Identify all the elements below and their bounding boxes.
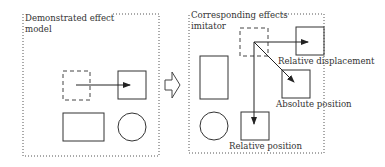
right-panel-title-line2: imitator [191,21,227,31]
hollow-right-arrow-icon [165,72,180,98]
tall-rectangle-shape [200,56,228,99]
relative-position-square [241,112,269,140]
left-panel-title-line2: model [25,24,52,34]
left-panel-title-line1: Demonstrated effect [25,13,115,23]
relative-displacement-label: Relative displacement [278,56,375,66]
effect-imitation-diagram: Demonstrated effect model Corresponding … [0,0,385,167]
circle-shape-imitator [200,112,228,140]
right-panel-title-line1: Corresponding effects [191,10,288,20]
rectangle-shape [63,113,104,141]
circle-shape [118,113,146,141]
right-panel: Corresponding effects imitator Relative … [189,10,375,153]
relative-position-label: Relative position [229,141,303,151]
absolute-position-label: Absolute position [275,99,352,109]
right-panel-border [189,14,324,153]
left-panel: Demonstrated effect model [23,13,159,156]
relative-displacement-square [296,27,324,55]
